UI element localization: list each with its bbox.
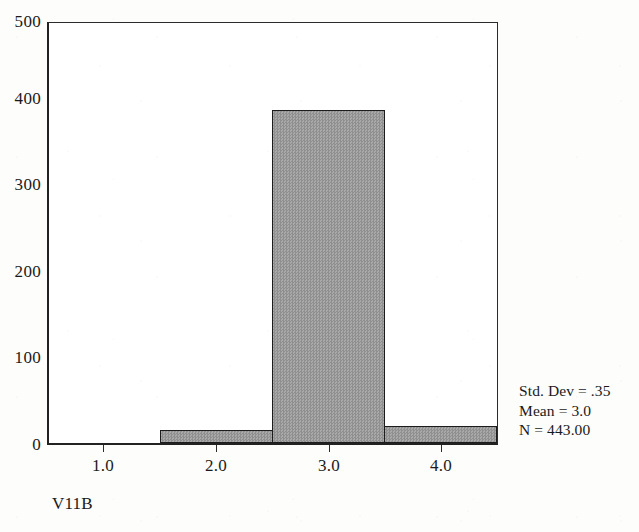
x-tick-label-3: 3.0 (318, 456, 340, 475)
x-tick-label-4: 4.0 (430, 456, 452, 475)
histogram-bar-3 (272, 110, 385, 443)
plot-area (47, 22, 498, 445)
mean-text: Mean = 3.0 (519, 401, 611, 421)
y-tick-label-500: 500 (15, 13, 41, 30)
x-tick-mark-4 (441, 445, 442, 452)
n-text: N = 443.00 (519, 420, 611, 440)
x-tick-mark-2 (216, 445, 217, 452)
y-tick-label-0: 0 (32, 436, 41, 453)
x-axis-title: V11B (52, 494, 93, 513)
y-tick-label-300: 300 (15, 176, 41, 193)
y-tick-label-100: 100 (15, 349, 41, 366)
histogram-figure: 500 400 300 200 100 0 1.0 2.0 3.0 4.0 V1… (0, 0, 639, 532)
y-tick-label-200: 200 (15, 263, 41, 280)
x-tick-mark-3 (329, 445, 330, 452)
bars-layer (49, 23, 497, 443)
histogram-bar-4 (384, 426, 497, 443)
statistics-annotation: Std. Dev = .35 Mean = 3.0 N = 443.00 (519, 381, 611, 440)
histogram-bar-1 (49, 442, 161, 443)
y-tick-label-400: 400 (15, 90, 41, 107)
y-axis-labels: 500 400 300 200 100 0 (0, 0, 41, 532)
x-tick-mark-1 (103, 445, 104, 452)
histogram-bar-2 (160, 430, 273, 443)
x-tick-label-1: 1.0 (92, 456, 114, 475)
std-dev-text: Std. Dev = .35 (519, 381, 611, 401)
x-tick-label-2: 2.0 (205, 456, 227, 475)
